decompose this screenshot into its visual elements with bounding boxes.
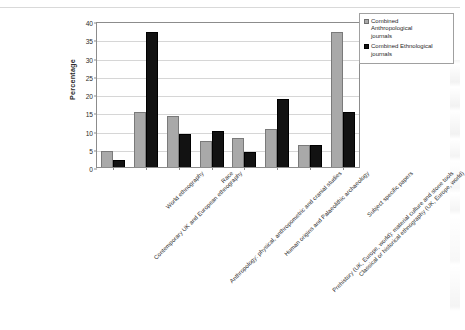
- x-tick-mark: [146, 167, 147, 170]
- bar-group: [163, 23, 196, 167]
- bar: [232, 138, 244, 167]
- bar-group: [261, 23, 294, 167]
- bar: [310, 145, 322, 167]
- bar: [167, 116, 179, 167]
- bar-group: [130, 23, 163, 167]
- legend-label-ethnological: Combined Ethnologicaljournals: [371, 43, 433, 58]
- x-tick-mark: [343, 167, 344, 170]
- x-tick-mark: [310, 167, 311, 170]
- y-tick-label: 30: [86, 56, 93, 63]
- bar: [277, 99, 289, 167]
- y-tick-label: 15: [86, 111, 93, 118]
- bar: [200, 141, 212, 167]
- x-axis-label: Subject specific papers: [366, 170, 414, 218]
- y-tick-label: 35: [86, 38, 93, 45]
- bar: [113, 160, 125, 167]
- legend-item-anthropological: CombinedAnthropologicaljournals: [364, 18, 450, 40]
- x-tick-mark: [179, 167, 180, 170]
- y-tick-label: 25: [86, 74, 93, 81]
- bar: [179, 134, 191, 167]
- plot-area: 0510152025303540: [96, 22, 360, 168]
- bar: [265, 129, 277, 167]
- bar-group: [97, 23, 130, 167]
- x-axis-label: Contemporary UK and European ethnography: [152, 170, 243, 261]
- bar-groups: [97, 23, 359, 167]
- x-tick-mark: [244, 167, 245, 170]
- y-tick-label: 0: [89, 166, 93, 173]
- x-axis-label: World ethnography: [164, 170, 204, 210]
- bar: [134, 112, 146, 167]
- y-tick-label: 5: [89, 147, 93, 154]
- legend-label-anthropological: CombinedAnthropologicaljournals: [371, 18, 412, 40]
- bar: [101, 151, 113, 167]
- y-tick-label: 20: [86, 93, 93, 100]
- bar: [298, 145, 310, 167]
- bar-group: [326, 23, 359, 167]
- bar-group: [195, 23, 228, 167]
- bar-group: [228, 23, 261, 167]
- y-tick-label: 10: [86, 129, 93, 136]
- legend-item-ethnological: Combined Ethnologicaljournals: [364, 43, 450, 58]
- bar: [331, 32, 343, 167]
- chart-legend: CombinedAnthropologicaljournals Combined…: [359, 13, 454, 64]
- y-tick-mark: [94, 169, 97, 170]
- bar: [146, 32, 158, 167]
- legend-swatch-icon-ethnological: [364, 44, 369, 49]
- bar: [212, 131, 224, 168]
- bar-group: [294, 23, 327, 167]
- y-tick-label: 40: [86, 20, 93, 27]
- x-axis-label: Classical or historical ethnography (UK,…: [357, 170, 464, 277]
- x-tick-mark: [113, 167, 114, 170]
- x-tick-mark: [277, 167, 278, 170]
- x-tick-mark: [212, 167, 213, 170]
- bar: [244, 152, 256, 167]
- y-axis-title: Percentage: [68, 35, 77, 125]
- x-axis-label: Anthropology: physical, anthropometric a…: [228, 170, 342, 284]
- bar: [343, 112, 355, 167]
- legend-swatch-icon-anthropological: [364, 19, 369, 24]
